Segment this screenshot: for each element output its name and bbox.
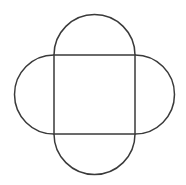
diagram-canvas (0, 0, 186, 185)
left-semicircle (15, 55, 54, 134)
top-semicircle (54, 15, 135, 55)
right-semicircle (135, 55, 174, 134)
square-with-semicircles-figure (0, 0, 186, 185)
bottom-semicircle (54, 134, 135, 174)
central-square (54, 55, 135, 134)
